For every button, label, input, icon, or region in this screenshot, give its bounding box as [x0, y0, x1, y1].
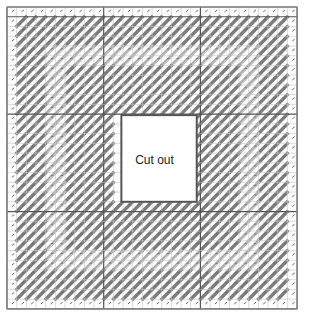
cutout-label: Cut out: [111, 115, 198, 204]
